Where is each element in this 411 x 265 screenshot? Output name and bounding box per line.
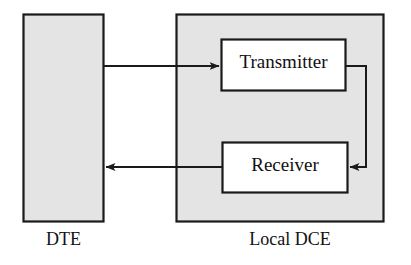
- node-dte: [24, 15, 104, 222]
- diagram-canvas: Transmitter Receiver DTE Local DCE: [0, 0, 411, 265]
- caption-dte: DTE: [13, 230, 114, 248]
- caption-local-dce: Local DCE: [221, 230, 359, 248]
- node-label-transmitter: Transmitter: [221, 52, 346, 71]
- node-label-receiver: Receiver: [222, 155, 348, 174]
- diagram-svg: [0, 0, 411, 265]
